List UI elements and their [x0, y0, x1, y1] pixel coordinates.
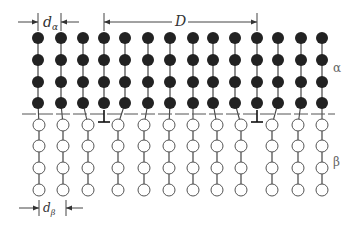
beta-atom	[33, 162, 45, 174]
d-alpha-label: dα	[43, 14, 58, 32]
alpha-phase-label: α	[333, 61, 341, 75]
beta-atom	[57, 184, 69, 196]
alpha-atom	[272, 54, 284, 66]
alpha-atom	[295, 76, 307, 88]
dislocation-symbol	[98, 110, 110, 122]
alpha-atom	[119, 54, 131, 66]
alpha-atom	[187, 76, 199, 88]
beta-atom	[187, 119, 199, 131]
beta-atom	[138, 119, 150, 131]
alpha-atom	[251, 76, 263, 88]
alpha-atom	[55, 76, 67, 88]
beta-atom	[211, 119, 223, 131]
alpha-atom	[229, 54, 241, 66]
interface-diagram: dα D dβ α β	[0, 0, 358, 227]
beta-atom	[138, 140, 150, 152]
beta-atom	[112, 184, 124, 196]
D-label: D	[174, 13, 186, 29]
beta-atom	[163, 184, 175, 196]
alpha-atom	[98, 32, 110, 44]
beta-atom	[33, 119, 45, 131]
beta-atom	[138, 184, 150, 196]
d-alpha-arrowhead-left	[32, 20, 38, 25]
beta-atom	[292, 119, 304, 131]
alpha-atom	[207, 76, 219, 88]
beta-atom	[266, 162, 278, 174]
beta-atom	[292, 184, 304, 196]
beta-atom	[138, 162, 150, 174]
alpha-atom	[251, 97, 263, 109]
beta-atom	[82, 140, 94, 152]
alpha-atom	[229, 32, 241, 44]
alpha-atom	[98, 54, 110, 66]
beta-atom	[292, 162, 304, 174]
alpha-atom	[207, 54, 219, 66]
alpha-atom	[295, 97, 307, 109]
alpha-atom	[187, 54, 199, 66]
beta-atom	[33, 184, 45, 196]
alpha-atom	[316, 97, 328, 109]
alpha-atom	[142, 54, 154, 66]
beta-atom	[163, 140, 175, 152]
d-beta-arrowhead-right	[66, 206, 72, 211]
D-arrowhead-right	[251, 20, 257, 25]
beta-atom	[187, 162, 199, 174]
alpha-atom	[55, 97, 67, 109]
alpha-atom	[77, 32, 89, 44]
alpha-atom	[119, 32, 131, 44]
beta-atom	[235, 119, 247, 131]
alpha-atom	[32, 32, 44, 44]
beta-atom	[235, 162, 247, 174]
d-beta-arrowhead-left	[33, 206, 39, 211]
alpha-atom	[164, 76, 176, 88]
beta-atom	[57, 119, 69, 131]
beta-atom	[266, 119, 278, 131]
alpha-atom	[98, 97, 110, 109]
alpha-atom	[316, 76, 328, 88]
beta-atom	[187, 140, 199, 152]
beta-atom	[316, 184, 328, 196]
beta-atom	[211, 184, 223, 196]
beta-atom	[112, 119, 124, 131]
alpha-atom	[119, 97, 131, 109]
beta-atom	[57, 162, 69, 174]
alpha-atom	[119, 76, 131, 88]
alpha-atom	[98, 76, 110, 88]
alpha-atom	[55, 32, 67, 44]
beta-atom	[316, 140, 328, 152]
beta-atom	[211, 140, 223, 152]
beta-atom	[33, 140, 45, 152]
alpha-atom	[164, 54, 176, 66]
d-beta-label: dβ	[43, 201, 56, 217]
alpha-atom	[229, 76, 241, 88]
alpha-atom	[272, 76, 284, 88]
alpha-atom	[32, 54, 44, 66]
alpha-atom	[32, 76, 44, 88]
beta-atom	[266, 184, 278, 196]
beta-atom	[187, 184, 199, 196]
alpha-atom	[316, 32, 328, 44]
alpha-atom	[142, 76, 154, 88]
beta-atom	[235, 140, 247, 152]
alpha-atom	[295, 32, 307, 44]
alpha-atom	[295, 54, 307, 66]
beta-atom	[57, 140, 69, 152]
alpha-atom	[316, 54, 328, 66]
alpha-atom	[77, 76, 89, 88]
alpha-atom	[142, 97, 154, 109]
beta-atom	[82, 184, 94, 196]
alpha-atom	[32, 97, 44, 109]
beta-atom	[235, 184, 247, 196]
alpha-atom	[55, 54, 67, 66]
alpha-atom	[187, 97, 199, 109]
alpha-atom	[207, 97, 219, 109]
beta-atom	[266, 140, 278, 152]
alpha-atom	[187, 32, 199, 44]
dislocation-symbol	[251, 110, 263, 122]
alpha-atom	[164, 97, 176, 109]
beta-atom	[316, 119, 328, 131]
alpha-atom	[251, 32, 263, 44]
alpha-atom	[164, 32, 176, 44]
beta-atom	[112, 162, 124, 174]
beta-atom	[211, 162, 223, 174]
